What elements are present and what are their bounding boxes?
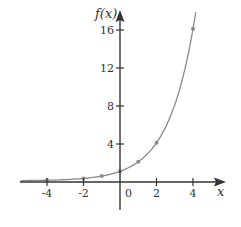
y-tick-label: 16	[100, 24, 114, 37]
x-tick-label: 4	[190, 187, 197, 200]
data-point-marker	[155, 141, 159, 145]
y-tick-label: 4	[107, 138, 114, 151]
y-tick-label: 8	[107, 100, 114, 113]
y-tick-label: 12	[100, 62, 114, 75]
x-tick-label: 2	[153, 187, 160, 200]
data-point-marker	[191, 27, 195, 31]
x-tick-label: 0	[125, 187, 132, 200]
x-tick-label: -4	[42, 187, 53, 200]
data-point-marker	[136, 160, 140, 164]
exponential-chart: -4-2024481216 f(x) x	[0, 0, 241, 227]
x-axis-label: x	[217, 184, 225, 199]
ticks: -4-2024481216	[42, 24, 197, 200]
y-axis-label: f(x)	[94, 6, 117, 21]
data-point-marker	[100, 174, 104, 178]
function-curve	[21, 12, 196, 180]
curve-layer	[21, 12, 196, 182]
x-tick-label: -2	[78, 187, 89, 200]
